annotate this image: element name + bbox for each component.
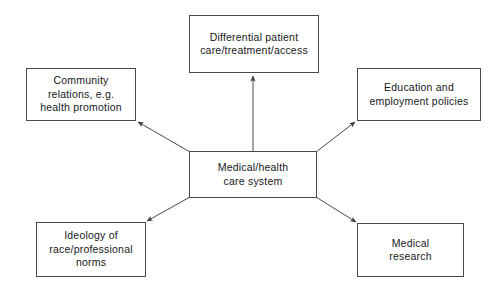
diagram-canvas: Differential patient care/treatment/acce… (0, 0, 501, 282)
arrow-to-ideology-race-professional-norms (147, 197, 190, 221)
node-medical-health-care-system[interactable]: Medical/health care system (189, 151, 317, 198)
node-label-ideology-race-professional-norms: Ideology of race/professional norms (46, 229, 136, 270)
node-label-medical-health-care-system: Medical/health care system (215, 161, 292, 188)
node-label-education-employment-policies: Education and employment policies (366, 81, 471, 108)
node-label-differential-patient-care: Differential patient care/treatment/acce… (197, 31, 311, 58)
node-education-employment-policies[interactable]: Education and employment policies (357, 68, 481, 121)
arrow-to-community-relations (138, 122, 190, 152)
node-label-community-relations: Community relations, e.g. health promoti… (37, 74, 125, 115)
node-differential-patient-care[interactable]: Differential patient care/treatment/acce… (189, 15, 319, 73)
node-label-medical-research: Medical research (386, 237, 435, 264)
arrow-to-education-employment-policies (316, 122, 355, 152)
node-community-relations[interactable]: Community relations, e.g. health promoti… (26, 68, 136, 121)
arrow-to-medical-research (316, 197, 356, 222)
node-medical-research[interactable]: Medical research (357, 223, 464, 277)
node-ideology-race-professional-norms[interactable]: Ideology of race/professional norms (36, 222, 146, 277)
